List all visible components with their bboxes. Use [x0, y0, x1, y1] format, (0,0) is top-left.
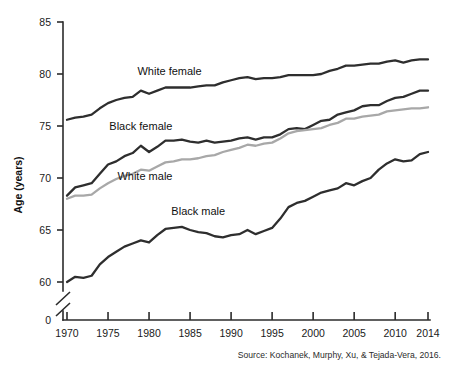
chart-plot-area: 6065707580850 19701975198019851990199520…: [0, 0, 450, 366]
x-tick-label-1980: 1980: [137, 327, 161, 339]
series-label-white-male: White male: [117, 170, 172, 182]
x-axis-ticks: 1970197519801985199019952000200520102014: [55, 312, 440, 339]
y-tick-label-85: 85: [39, 16, 51, 28]
source-citation: Source: Kochanek, Murphy, Xu, & Tejada-V…: [238, 350, 441, 360]
series-label-white-female: White female: [137, 65, 201, 77]
x-tick-label-1970: 1970: [55, 327, 79, 339]
y-axis-title: Age (years): [12, 156, 24, 213]
y-tick-label-60: 60: [39, 276, 51, 288]
x-tick-label-1975: 1975: [96, 327, 120, 339]
series-line-white-female: [67, 59, 428, 119]
x-tick-label-1995: 1995: [260, 327, 284, 339]
life-expectancy-chart: 6065707580850 19701975198019851990199520…: [0, 0, 450, 366]
y-tick-label-65: 65: [39, 224, 51, 236]
x-tick-label-2010: 2010: [384, 327, 408, 339]
x-tick-label-1990: 1990: [219, 327, 243, 339]
series-label-black-male: Black male: [171, 205, 225, 217]
x-tick-label-2000: 2000: [301, 327, 325, 339]
chart-axes: [56, 22, 430, 320]
y-axis-ticks: 6065707580850: [39, 16, 63, 326]
x-tick-label-1985: 1985: [178, 327, 202, 339]
y-tick-label-zero: 0: [45, 314, 51, 326]
x-tick-label-2005: 2005: [342, 327, 366, 339]
y-tick-label-75: 75: [39, 120, 51, 132]
x-tick-label-2014: 2014: [416, 327, 440, 339]
y-tick-label-70: 70: [39, 172, 51, 184]
series-label-black-female: Black female: [109, 120, 172, 132]
y-tick-label-80: 80: [39, 68, 51, 80]
